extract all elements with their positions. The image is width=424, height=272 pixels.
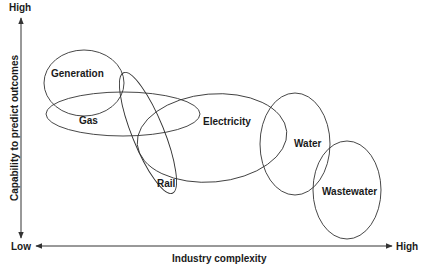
electricity-label: Electricity <box>203 116 251 127</box>
generation-ellipse <box>44 50 124 116</box>
generation-label: Generation <box>51 68 104 79</box>
sector-diagram: High Capability to predict outcomes Low … <box>0 0 424 272</box>
wastewater-label: Wastewater <box>322 186 377 197</box>
gas-label: Gas <box>79 115 98 126</box>
x-axis-title: Industry complexity <box>172 253 267 264</box>
x-axis-low-label: Low <box>11 241 31 252</box>
y-axis-title: Capability to predict outcomes <box>9 54 20 201</box>
x-axis-high-label: High <box>396 241 418 252</box>
rail-ellipse <box>109 67 187 200</box>
y-axis-high-label: High <box>9 2 31 13</box>
water-label: Water <box>294 138 322 149</box>
electricity-ellipse <box>133 88 290 189</box>
rail-label: Rail <box>157 178 176 189</box>
